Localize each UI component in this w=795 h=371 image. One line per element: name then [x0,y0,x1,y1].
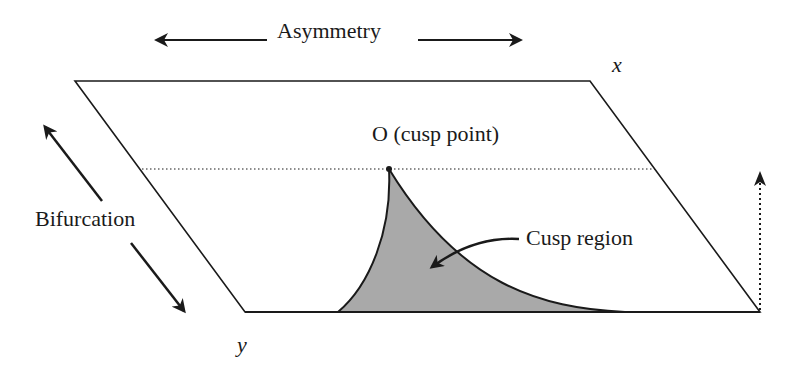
asymmetry-label: Asymmetry [277,20,381,42]
x-axis-label: x [612,54,622,76]
bifurcation-up-arrow [45,127,102,201]
cusp-point-label: O (cusp point) [372,123,499,145]
bifurcation-label: Bifurcation [35,208,135,230]
cusp-diagram [0,0,795,371]
y-axis-label: y [237,334,247,356]
cusp-point-dot [386,166,392,172]
cusp-region-label: Cusp region [526,227,633,249]
bifurcation-down-arrow [131,243,184,311]
